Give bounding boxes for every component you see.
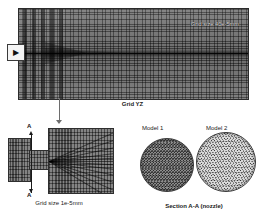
nozzle-throat-block [29, 150, 50, 170]
model-2-label: Model 2 [206, 125, 227, 131]
downstream-fan-lines [49, 129, 113, 193]
detail-connector-line [59, 98, 60, 122]
jet-centerline [19, 53, 248, 54]
model-1-label: Model 1 [142, 125, 163, 131]
inlet-marker-box: ▶ [7, 44, 25, 61]
downstream-chamber-block [48, 128, 114, 194]
upstream-chamber-block [8, 138, 31, 182]
model-1-nozzle-section [140, 138, 194, 192]
caption-section-aa: Section A-A (nozzle) [130, 203, 258, 209]
throat-mesh-h [30, 151, 49, 169]
figure-root: Grid size 40e-5mm ▶ Grid YZ [0, 0, 260, 220]
model-2-nozzle-section [196, 132, 256, 192]
section-label-top: A [27, 123, 31, 129]
caption-grid-yz: Grid YZ [18, 101, 247, 107]
grid-yz-panel: Grid size 40e-5mm [18, 8, 249, 100]
chamber-in-mesh-h [9, 139, 30, 181]
nozzle-detail-panel [8, 126, 113, 194]
detail-connector-arrow-icon [56, 120, 62, 124]
grid-size-annotation: Grid size 40e-5mm [191, 21, 239, 27]
model-1-rim [141, 139, 193, 191]
model-2-rim [197, 133, 255, 191]
caption-grid-size-detail: Grid size 1e-5mm [4, 200, 114, 206]
right-arrow-icon: ▶ [13, 49, 19, 57]
section-label-bottom: A [27, 192, 31, 198]
section-cut-line [31, 133, 32, 193]
